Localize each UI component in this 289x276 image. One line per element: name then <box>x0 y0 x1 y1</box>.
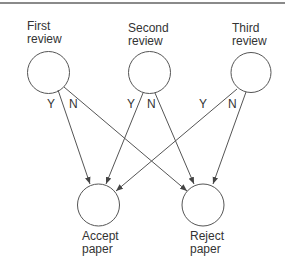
edge-label-third-n: N <box>228 98 237 110</box>
edge-label-third-y: Y <box>199 98 207 110</box>
label-line: review <box>232 35 267 48</box>
edge-second-accept-arrow <box>106 93 143 184</box>
edge-second-reject-arrow <box>155 93 194 184</box>
label-line: review <box>27 33 62 46</box>
node-second-review <box>129 52 171 94</box>
edge-label-first-y: Y <box>47 98 55 110</box>
node-reject-paper <box>182 184 224 226</box>
label-third-review: Third review <box>232 22 267 48</box>
node-accept-paper <box>78 184 120 226</box>
edge-label-second-n: N <box>147 98 156 110</box>
edge-first-reject-arrow <box>64 87 187 191</box>
label-reject-paper: Reject paper <box>190 230 224 256</box>
label-line: review <box>128 35 169 48</box>
label-line: paper <box>82 243 119 256</box>
label-line: paper <box>190 243 224 256</box>
edge-label-first-n: N <box>69 98 78 110</box>
edge-label-second-y: Y <box>127 98 135 110</box>
label-second-review: Second review <box>128 22 169 48</box>
label-first-review: First review <box>27 20 62 46</box>
label-accept-paper: Accept paper <box>82 230 119 256</box>
node-third-review <box>231 53 271 93</box>
node-first-review <box>28 52 70 94</box>
